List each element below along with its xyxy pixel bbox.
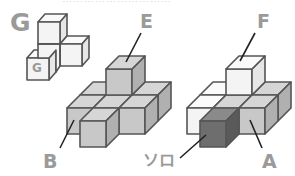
figure-right xyxy=(187,56,291,147)
label-e: E xyxy=(140,12,153,31)
label-b: B xyxy=(43,152,57,171)
figure-middle xyxy=(67,56,171,147)
label-f: F xyxy=(257,12,270,31)
label-g-large: G xyxy=(10,10,31,35)
label-solo: ソロ xyxy=(143,153,175,169)
label-a: A xyxy=(262,152,277,171)
label-g-small: G xyxy=(32,62,42,74)
